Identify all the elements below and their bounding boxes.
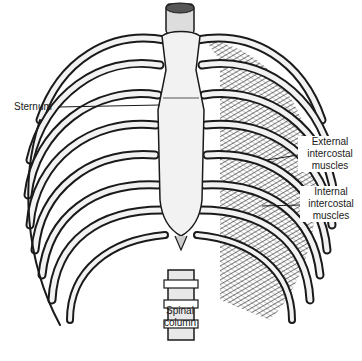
internal-intercostal-label: Internal intercostal muscles: [300, 186, 362, 222]
spinal-column-line-2: column: [150, 317, 210, 329]
external-intercostal-line-3: muscles: [298, 160, 362, 172]
external-intercostal-line-1: External: [298, 136, 362, 148]
sternum-label: Sternum: [14, 101, 52, 113]
sternum-label-text: Sternum: [14, 101, 52, 112]
external-intercostal-line-2: intercostal: [298, 148, 362, 160]
sternum-leader: [58, 105, 160, 107]
internal-intercostal-line-1: Internal: [300, 186, 362, 198]
sternum: [158, 32, 204, 251]
external-intercostal-label: External intercostal muscles: [298, 136, 362, 172]
spinal-column-line-1: Spinal: [150, 305, 210, 317]
internal-intercostal-line-3: muscles: [300, 210, 362, 222]
left-ribs: [28, 38, 165, 325]
internal-intercostal-line-2: intercostal: [300, 198, 362, 210]
spinal-column-label: Spinal column: [150, 305, 210, 329]
